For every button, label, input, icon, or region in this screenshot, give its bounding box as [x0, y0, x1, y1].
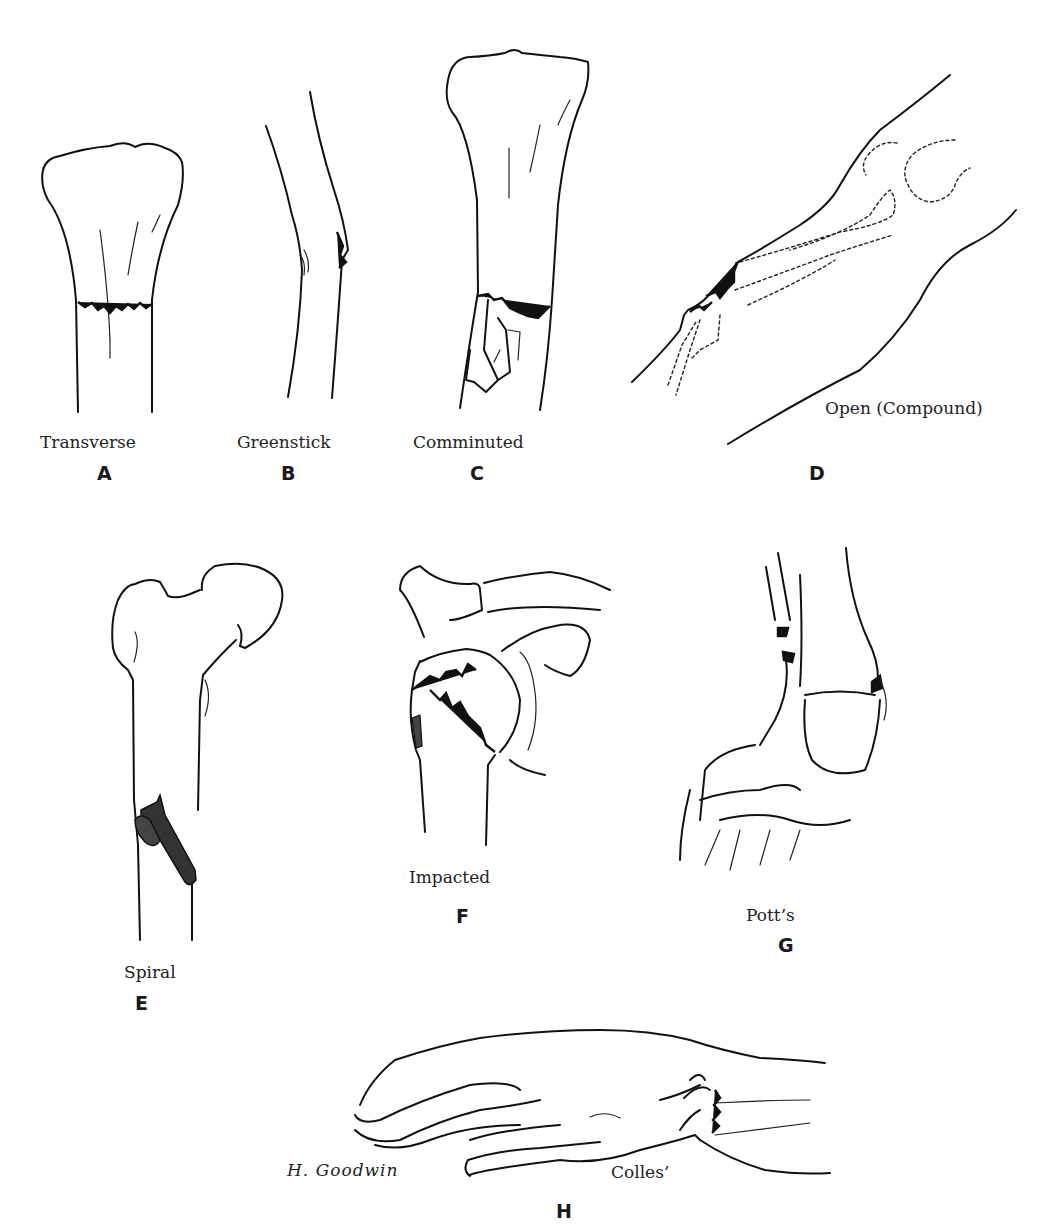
- figure-c-label: Comminuted: [413, 432, 524, 452]
- figure-b-letter: B: [281, 462, 295, 484]
- figure-b-label: Greenstick: [237, 432, 331, 452]
- figure-c-letter: C: [470, 462, 484, 484]
- figure-g-label: Pott’s: [746, 905, 795, 925]
- figure-h-label: Colles’: [611, 1162, 669, 1182]
- artist-signature: H. Goodwin: [287, 1160, 399, 1180]
- figure-h-colles-fracture-illustration: [0, 0, 1050, 1231]
- figure-h-letter: H: [556, 1200, 572, 1222]
- figure-e-label: Spiral: [124, 962, 176, 982]
- figure-e-letter: E: [135, 992, 148, 1014]
- figure-f-label: Impacted: [409, 867, 490, 887]
- figure-d-label: Open (Compound): [825, 398, 983, 418]
- fracture-types-plate: Transverse A Greenstick B Comminuted C O…: [0, 0, 1050, 1231]
- figure-d-letter: D: [809, 462, 825, 484]
- figure-a-letter: A: [97, 462, 112, 484]
- figure-g-letter: G: [778, 934, 794, 956]
- figure-f-letter: F: [456, 905, 469, 927]
- figure-a-label: Transverse: [40, 432, 136, 452]
